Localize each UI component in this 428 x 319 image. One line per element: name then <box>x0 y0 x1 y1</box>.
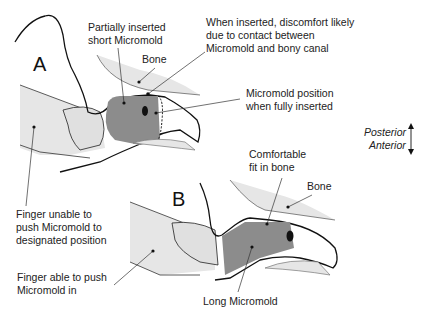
leader-dot <box>122 101 125 104</box>
micromold-b-hole <box>287 231 294 242</box>
label-line: fit in bone <box>249 161 306 174</box>
panel-label-a: A <box>33 53 46 76</box>
label-finger-unable: Finger unable to push Micromold to desig… <box>16 208 107 247</box>
leader-dot <box>250 245 253 248</box>
leader-dot <box>286 205 289 208</box>
label-line: Partially inserted <box>88 21 166 34</box>
label-line: Finger unable to <box>16 208 107 221</box>
leader-dot <box>151 249 154 252</box>
label-posterior: Posterior <box>364 126 406 139</box>
label-line: Finger able to push <box>17 271 107 284</box>
leader-dot <box>154 111 157 114</box>
arrow-down-icon <box>408 149 414 155</box>
label-line: When inserted, discomfort likely <box>206 16 354 29</box>
label-finger-able: Finger able to push Micromold in <box>17 271 107 297</box>
leader-fully <box>156 99 240 113</box>
label-bone-b: Bone <box>307 180 332 193</box>
label-line: Micromold position <box>246 87 334 100</box>
label-line: designated position <box>16 234 107 247</box>
bone-a-lower <box>133 139 195 150</box>
label-bone-a: Bone <box>142 53 167 66</box>
label-line: Micromold and bony canal <box>206 42 354 55</box>
label-long-micromold: Long Micromold <box>203 295 278 308</box>
label-line: short Micromold <box>88 34 166 47</box>
label-anterior: Anterior <box>369 139 406 152</box>
leader-dot <box>146 92 150 96</box>
panel-label-b: B <box>172 188 185 211</box>
label-line: Micromold in <box>17 284 107 297</box>
label-comfortable: Comfortable fit in bone <box>249 148 306 174</box>
micromold-a-hole <box>142 106 148 116</box>
label-partially-inserted: Partially inserted short Micromold <box>88 21 166 47</box>
label-line: when fully inserted <box>246 100 334 113</box>
arrow-up-icon <box>408 123 414 129</box>
leader-dot <box>32 125 35 128</box>
label-discomfort: When inserted, discomfort likely due to … <box>206 16 354 55</box>
label-line: due to contact between <box>206 29 354 42</box>
label-line: push Micromold to <box>16 221 107 234</box>
leader-dot <box>137 80 140 83</box>
micromold-short <box>106 96 160 145</box>
label-line: Comfortable <box>249 148 306 161</box>
leader-dot <box>265 222 268 225</box>
label-fully-inserted: Micromold position when fully inserted <box>246 87 334 113</box>
